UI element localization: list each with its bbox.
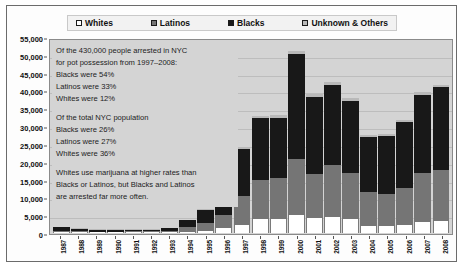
bar-column[interactable]	[71, 41, 88, 233]
bar-segment-whites	[179, 232, 196, 233]
x-axis-tick-label: 2007	[424, 240, 431, 254]
bar-column[interactable]	[161, 41, 178, 233]
legend-item-blacks[interactable]: Blacks	[228, 18, 264, 28]
bar-segment-latinos	[197, 223, 214, 231]
bar-segment-blacks	[306, 97, 323, 175]
x-axis-tick-mark	[60, 236, 61, 239]
y-axis-tick-mark	[44, 128, 47, 129]
y-axis-tick-label: 50,000	[20, 52, 43, 61]
y-axis-tick-label: 40,000	[20, 88, 43, 97]
bar-column[interactable]	[197, 41, 214, 233]
bar-segment-whites	[215, 228, 232, 233]
bar-column[interactable]	[107, 41, 124, 233]
bar-column[interactable]	[378, 41, 395, 233]
y-axis-tick-label: 35,000	[20, 106, 43, 115]
x-axis-tick-label: 1998	[260, 240, 267, 254]
bar-column[interactable]	[270, 41, 287, 233]
y-axis-labels: 55,00050,00045,00040,00035,00030,00025,0…	[7, 39, 47, 235]
x-axis-tick-label: 1992	[151, 240, 158, 254]
x-axis-tick-2004: 2004	[360, 236, 378, 268]
legend-swatch-icon	[151, 20, 157, 26]
legend-item-label: Latinos	[160, 18, 190, 28]
bar-segment-blacks	[396, 122, 413, 187]
chart-root: WhitesLatinosBlacksUnknown & Others 55,0…	[0, 0, 464, 268]
bar-column[interactable]	[433, 41, 450, 233]
x-axis-tick-label: 1994	[187, 240, 194, 254]
legend-item-whites[interactable]: Whites	[76, 18, 113, 28]
bar-segment-latinos	[270, 178, 287, 219]
bar-segment-whites	[252, 219, 269, 233]
bar-column[interactable]	[342, 41, 359, 233]
legend-item-unknown-others[interactable]: Unknown & Others	[302, 18, 388, 28]
bar-segment-latinos	[288, 159, 305, 215]
bar-segment-latinos	[342, 173, 359, 218]
x-axis-tick-mark	[169, 236, 170, 239]
bar-segment-whites	[270, 219, 287, 233]
bar-column[interactable]	[414, 41, 431, 233]
bar-segment-whites	[342, 219, 359, 233]
legend-item-label: Unknown & Others	[311, 18, 388, 28]
x-axis-tick-1995: 1995	[197, 236, 215, 268]
x-axis-tick-label: 1993	[169, 240, 176, 254]
x-axis-tick-mark	[333, 236, 334, 239]
bar-segment-blacks	[270, 118, 287, 178]
bar-column[interactable]	[143, 41, 160, 233]
y-axis-tick-mark	[44, 217, 47, 218]
x-axis-tick-mark	[151, 236, 152, 239]
x-axis-tick-2005: 2005	[378, 236, 396, 268]
bar-segment-whites	[125, 232, 142, 233]
x-axis-tick-1998: 1998	[251, 236, 269, 268]
x-axis-tick-label: 2003	[351, 240, 358, 254]
bar-segment-latinos	[414, 173, 431, 222]
bar-segment-whites	[107, 232, 124, 233]
bar-segment-latinos	[306, 174, 323, 217]
x-axis-tick-1988: 1988	[69, 236, 87, 268]
x-axis-tick-label: 2008	[442, 240, 449, 254]
bar-segment-whites	[324, 217, 341, 233]
bar-segment-blacks	[252, 118, 269, 180]
bar-column[interactable]	[396, 41, 413, 233]
x-axis-tick-mark	[387, 236, 388, 239]
bar-column[interactable]	[53, 41, 70, 233]
x-axis-tick-label: 1991	[133, 240, 140, 254]
y-axis-tick-mark	[44, 199, 47, 200]
x-axis-tick-label: 1996	[224, 240, 231, 254]
y-axis-tick-mark	[44, 74, 47, 75]
bar-column[interactable]	[306, 41, 323, 233]
legend-item-latinos[interactable]: Latinos	[151, 18, 190, 28]
x-axis-tick-label: 2000	[297, 240, 304, 254]
bar-column[interactable]	[252, 41, 269, 233]
bar-column[interactable]	[89, 41, 106, 233]
bar-column[interactable]	[288, 41, 305, 233]
x-axis-tick-label: 1997	[242, 240, 249, 254]
bar-segment-whites	[234, 225, 251, 233]
bar-column[interactable]	[360, 41, 377, 233]
legend-item-label: Whites	[85, 18, 113, 28]
bar-column[interactable]	[215, 41, 232, 233]
bar-segment-whites	[433, 221, 450, 233]
x-axis-tick-1994: 1994	[178, 236, 196, 268]
x-axis-tick-1990: 1990	[106, 236, 124, 268]
x-axis-tick-mark	[278, 236, 279, 239]
bar-segment-whites	[161, 232, 178, 233]
bar-column[interactable]	[179, 41, 196, 233]
y-axis-tick-label: 45,000	[20, 70, 43, 79]
bar-column[interactable]	[234, 41, 251, 233]
x-axis-tick-1991: 1991	[124, 236, 142, 268]
x-axis-tick-mark	[406, 236, 407, 239]
y-axis-tick-label: 0	[39, 231, 43, 240]
x-axis-tick-mark	[133, 236, 134, 239]
bar-column[interactable]	[125, 41, 142, 233]
chart-legend: WhitesLatinosBlacksUnknown & Others	[67, 15, 397, 31]
bar-segment-whites	[89, 232, 106, 233]
x-axis-tick-mark	[224, 236, 225, 239]
bar-series-group	[51, 41, 451, 233]
bar-segment-whites	[53, 232, 70, 233]
bar-column[interactable]	[324, 41, 341, 233]
bar-segment-blacks	[179, 220, 196, 227]
bar-segment-blacks	[378, 136, 395, 194]
y-axis-tick-label: 20,000	[20, 159, 43, 168]
bar-segment-whites	[378, 226, 395, 233]
x-axis-tick-mark	[351, 236, 352, 239]
y-axis-tick-mark	[44, 56, 47, 57]
